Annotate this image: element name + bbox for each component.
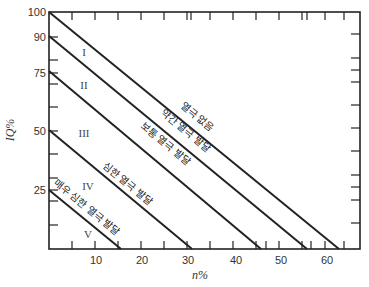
top-ticks xyxy=(72,12,344,20)
zone-II: II xyxy=(80,79,88,91)
zone-I: I xyxy=(82,46,86,58)
x-tick-50: 50 xyxy=(275,254,287,266)
y-tick-75: 75 xyxy=(34,67,46,79)
x-tick-60: 60 xyxy=(321,254,333,266)
x-tick-10: 10 xyxy=(90,254,102,266)
y-axis-title: IQ% xyxy=(3,119,17,143)
y-tick-25: 25 xyxy=(34,184,46,196)
x-axis-title: n% xyxy=(192,268,208,282)
right-ticks xyxy=(351,34,360,223)
chart: 100 90 75 50 25 10 20 30 40 50 60 n% IQ%… xyxy=(0,0,369,287)
line-slight-fissure xyxy=(49,36,307,249)
x-tick-40: 40 xyxy=(230,254,242,266)
zone-III: III xyxy=(79,127,90,139)
x-tick-30: 30 xyxy=(182,254,194,266)
zone-IV: IV xyxy=(82,180,94,192)
y-tick-50: 50 xyxy=(34,125,46,137)
y-tick-100: 100 xyxy=(28,6,46,18)
y-tick-90: 90 xyxy=(34,31,46,43)
zone-V: V xyxy=(84,228,92,240)
x-tick-20: 20 xyxy=(136,254,148,266)
label-severe-fissure: 심한 열극 발달 xyxy=(101,160,155,207)
